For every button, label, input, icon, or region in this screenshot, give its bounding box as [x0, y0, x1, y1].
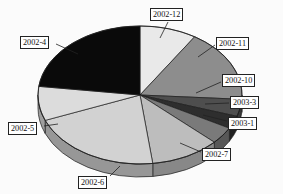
label-2002-4[interactable]: 2002-4: [20, 36, 49, 49]
label-2002-6[interactable]: 2002-6: [78, 176, 107, 189]
label-2002-11[interactable]: 2002-11: [216, 37, 249, 50]
label-2002-7[interactable]: 2002-7: [202, 148, 231, 161]
label-2003-1[interactable]: 2003-1: [228, 117, 257, 130]
pie-slice-2002-4[interactable]: [39, 26, 140, 95]
label-2002-12[interactable]: 2002-12: [150, 8, 183, 21]
pie-chart-figure: 2002-122002-112002-102003-32003-12002-72…: [0, 0, 283, 194]
label-2002-5[interactable]: 2002-5: [8, 122, 37, 135]
label-2002-10[interactable]: 2002-10: [222, 74, 255, 87]
label-2003-3[interactable]: 2003-3: [230, 96, 259, 109]
